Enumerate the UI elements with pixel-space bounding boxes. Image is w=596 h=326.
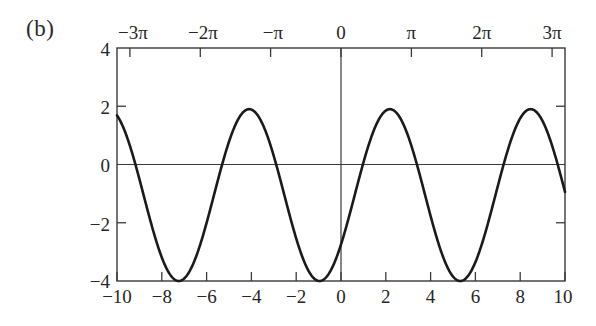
left-tick-labels: 4 2 0 −2 −4: [90, 39, 111, 292]
bottom-tick-label: 10: [554, 286, 573, 307]
bottom-tick-label: −4: [241, 286, 262, 307]
left-tick-label: −4: [90, 271, 111, 292]
bottom-tick-label: −8: [152, 286, 172, 307]
left-tick-label: 4: [101, 39, 111, 60]
top-axis-ticks: [130, 48, 552, 57]
top-tick-labels: −3π −2π −π 0 π 2π 3π: [118, 22, 562, 43]
left-tick-label: 0: [101, 155, 111, 176]
top-tick-label: 0: [336, 22, 346, 43]
top-tick-label: 3π: [543, 22, 563, 43]
bottom-tick-label: 0: [336, 286, 346, 307]
top-tick-label: −π: [263, 22, 284, 43]
bottom-tick-labels: −10 −8 −6 −4 −2 0 2 4 6 8 10: [102, 286, 572, 307]
left-tick-label: −2: [90, 214, 110, 235]
bottom-tick-label: −6: [196, 286, 216, 307]
bottom-tick-label: 2: [381, 286, 391, 307]
figure-panel: (b): [0, 0, 596, 326]
chart-plot: −10 −8 −6 −4 −2 0 2 4 6 8 10 −3π −2π −π …: [0, 0, 596, 326]
top-tick-label: π: [407, 22, 417, 43]
top-tick-label: −3π: [118, 22, 148, 43]
top-tick-label: 2π: [472, 22, 492, 43]
bottom-tick-label: 6: [471, 286, 481, 307]
bottom-tick-label: 4: [426, 286, 436, 307]
top-tick-label: −2π: [188, 22, 218, 43]
bottom-tick-label: 8: [515, 286, 525, 307]
left-tick-label: 2: [101, 97, 111, 118]
bottom-tick-label: −2: [286, 286, 306, 307]
panel-label: (b): [26, 16, 54, 42]
